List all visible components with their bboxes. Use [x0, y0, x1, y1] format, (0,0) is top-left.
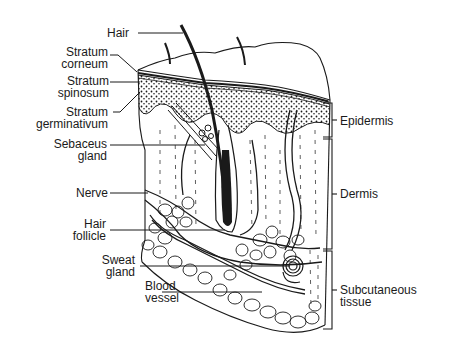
skin-diagram: Hair Stratum corneum Stratum spinosum St… — [0, 0, 453, 349]
label-sebaceus-gland: Sebaceus gland — [45, 138, 107, 162]
label-epidermis: Epidermis — [340, 115, 393, 127]
label-hair-follicle: Hair follicle — [64, 218, 106, 242]
label-stratum-corneum: Stratum corneum — [57, 46, 108, 70]
label-subcutaneous-tissue: Subcutaneous tissue — [340, 284, 417, 308]
label-dermis: Dermis — [340, 188, 378, 200]
label-hair: Hair — [107, 27, 129, 39]
label-blood-vessel: Blood vessel — [145, 280, 179, 304]
layer-brackets — [323, 103, 337, 329]
label-nerve: Nerve — [68, 187, 108, 199]
label-sweat-gland: Sweat gland — [92, 254, 135, 278]
label-stratum-germinativum: Stratum germinativum — [22, 106, 108, 130]
label-stratum-spinosum: Stratum spinosum — [48, 75, 109, 99]
